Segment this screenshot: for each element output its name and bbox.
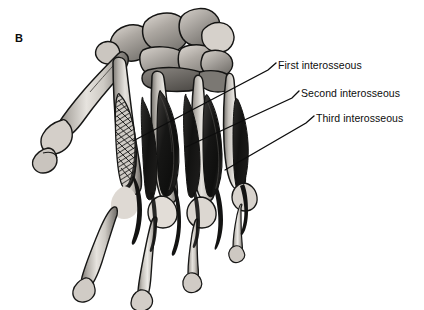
hand-skeleton-illustration bbox=[0, 0, 424, 310]
panel-letter-label: B bbox=[15, 33, 23, 44]
callout-label-second-interosseous: Second interosseous bbox=[301, 88, 400, 99]
anatomical-figure-panel: B First interosseous Second interosseous… bbox=[0, 0, 424, 310]
callout-label-third-interosseous: Third interosseous bbox=[316, 113, 403, 124]
callout-label-first-interosseous: First interosseous bbox=[278, 60, 362, 71]
